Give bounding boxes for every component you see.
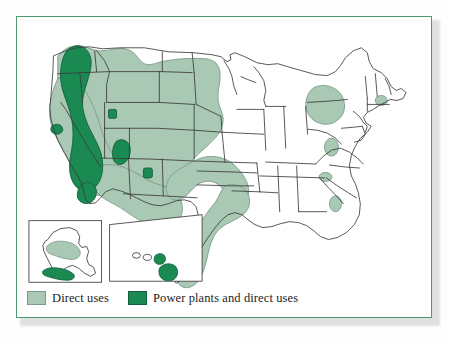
boundary-mn-wi	[224, 61, 237, 95]
alaska-inset	[29, 221, 102, 283]
boundary-sc-nc	[327, 178, 357, 198]
us-geothermal-map	[17, 17, 431, 317]
boundary-ms-al	[278, 166, 280, 212]
boundary-vt-nh	[375, 74, 377, 97]
legend-entry-power-plants: Power plants and direct uses	[128, 291, 298, 305]
map-plate: Direct uses Power plants and direct uses	[16, 16, 432, 318]
power-plants-label: Power plants and direct uses	[153, 292, 298, 305]
boundary-pa-md	[341, 126, 362, 128]
boundary-va-wv	[316, 148, 364, 164]
boundary-il-in	[264, 109, 266, 150]
hawaii-inset	[110, 215, 203, 282]
boundary-ny-vt	[365, 77, 367, 99]
hawaii-inset-frame	[110, 215, 203, 282]
boundary-great-lakes-mi	[241, 67, 266, 107]
direct-uses-label: Direct uses	[52, 292, 109, 305]
boundary-ar-ms	[257, 163, 260, 192]
boundary-la-ms	[260, 192, 278, 193]
direct-uses-appalachia	[306, 85, 345, 124]
boundary-nc-va	[329, 165, 359, 168]
hawaii-island-kauai	[132, 253, 140, 259]
hawaii-island-big-island	[159, 264, 178, 281]
legend-entry-direct-uses: Direct uses	[27, 291, 109, 305]
hawaii-island-oahu	[143, 254, 151, 260]
boundary-al-ga	[297, 166, 299, 212]
boundary-tn-ms	[260, 176, 325, 178]
power-plants-idaho	[109, 109, 117, 118]
power-plants-southern-utah	[143, 168, 152, 178]
boundary-mo-ks	[222, 132, 225, 162]
geothermal-resources-figure: Direct uses Power plants and direct uses	[0, 0, 449, 342]
direct-uses-massachusetts	[375, 95, 387, 105]
boundary-ky-tn	[266, 162, 316, 164]
boundary-ia-il	[222, 132, 264, 134]
direct-uses-georgia	[329, 196, 341, 212]
hawaii-island-maui	[154, 254, 165, 265]
boundary-ny-nj	[353, 111, 363, 122]
map-legend: Direct uses Power plants and direct uses	[27, 291, 298, 305]
direct-uses-swatch	[27, 291, 46, 305]
boundary-in-oh	[284, 106, 286, 148]
power-plants-swatch	[128, 291, 147, 305]
